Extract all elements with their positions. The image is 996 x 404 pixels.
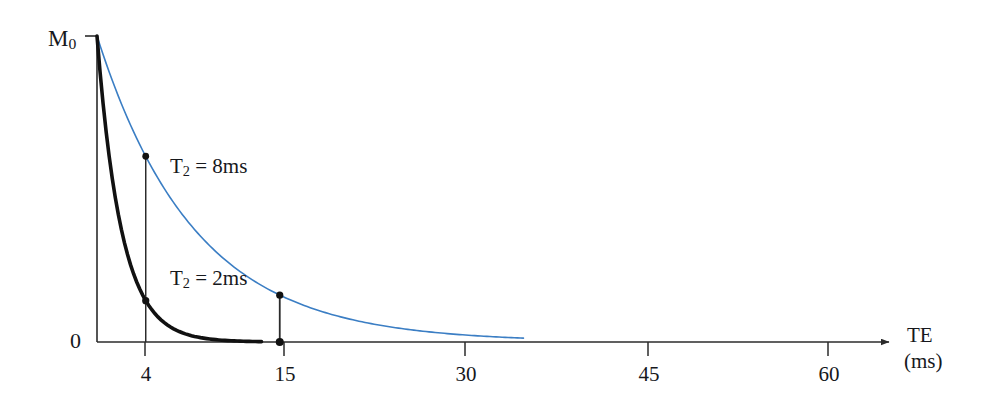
marker-dot-te4-t2-8ms: [142, 153, 149, 160]
curve-annotation-t2-8ms-subscript: 2: [183, 163, 190, 179]
marker-dot-te4-t2-2ms: [142, 297, 149, 304]
t2-decay-chart: M0 0 4 15 30 45 60 TE (ms) T2 = 8ms T2 =…: [0, 0, 996, 404]
curve-annotation-t2-2ms-suffix: = 2ms: [190, 266, 247, 290]
x-axis-name: TE: [907, 325, 933, 346]
marker-dot-te15-axis: [276, 338, 284, 346]
x-tick-label-15: 15: [275, 364, 296, 385]
curve-annotation-t2-8ms-prefix: T: [170, 154, 183, 178]
x-axis-ticks: [145, 342, 828, 356]
x-tick-label-4: 4: [141, 364, 152, 385]
x-tick-label-30: 30: [456, 364, 477, 385]
curve-annotation-t2-2ms-prefix: T: [170, 266, 183, 290]
decay-curve-t2-8ms: [97, 36, 523, 338]
x-tick-label-60: 60: [819, 364, 840, 385]
y-axis-max-label: M0: [48, 27, 76, 52]
y-axis-zero-label: 0: [70, 330, 81, 352]
curve-annotation-t2-2ms-subscript: 2: [183, 275, 190, 291]
x-tick-label-45: 45: [639, 364, 660, 385]
y-axis-max-label-subscript: 0: [68, 35, 76, 52]
curve-annotation-t2-2ms: T2 = 2ms: [170, 268, 247, 290]
decay-curve-t2-2ms: [97, 36, 261, 342]
curve-annotation-t2-8ms: T2 = 8ms: [170, 156, 247, 178]
chart-canvas: [0, 0, 996, 404]
marker-dot-te15-t2-8ms: [276, 292, 283, 299]
curve-annotation-t2-8ms-suffix: = 8ms: [190, 154, 247, 178]
y-axis-max-label-text: M: [48, 26, 68, 51]
x-axis-unit: (ms): [904, 351, 943, 372]
